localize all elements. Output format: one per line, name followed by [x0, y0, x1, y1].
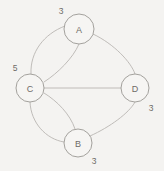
graph-diagram-canvas: ACDB 3533: [0, 0, 164, 171]
node-a[interactable]: A: [64, 14, 94, 44]
node-d[interactable]: D: [121, 74, 149, 102]
edge-c-b-1: [30, 102, 64, 142]
node-label-c: C: [27, 84, 34, 94]
node-label-a: A: [76, 25, 82, 35]
graph-svg: ACDB 3533: [0, 0, 164, 171]
degree-label-a: 3: [59, 6, 64, 16]
nodes-layer: ACDB: [16, 14, 149, 157]
degree-label-b: 3: [92, 156, 97, 166]
edge-b-d-1: [90, 102, 135, 136]
edge-c-b-2: [44, 93, 75, 129]
edge-a-d-1: [93, 34, 135, 74]
degree-label-c: 5: [13, 63, 18, 73]
node-c[interactable]: C: [16, 74, 44, 102]
node-label-d: D: [132, 84, 139, 94]
node-label-b: B: [75, 139, 81, 149]
edge-c-a-2: [44, 44, 79, 82]
node-b[interactable]: B: [64, 129, 92, 157]
edge-c-a-1: [31, 26, 65, 74]
degree-label-d: 3: [149, 103, 154, 113]
